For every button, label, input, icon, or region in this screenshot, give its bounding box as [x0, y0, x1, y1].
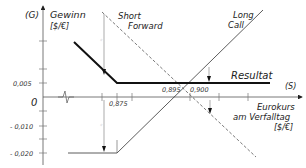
y-axis-symbol: (G) — [25, 10, 39, 20]
origin-label: 0 — [31, 97, 37, 108]
diagram-canvas: = = (G) Gewinn [$/€] Short Forward Long … — [0, 0, 306, 168]
axis-break-icon — [58, 91, 74, 103]
svg-text:=: = — [99, 37, 105, 42]
y-axis-unit: [$/€] — [50, 22, 69, 31]
arrow-head-icon — [208, 108, 212, 114]
arrow-head-icon — [207, 76, 211, 82]
y-axis-title: Gewinn — [50, 9, 86, 20]
x-axis-symbol: (S) — [285, 82, 296, 91]
x-axis-unit: [$/€] — [274, 123, 293, 132]
x-tick-label: 0,900 — [190, 86, 209, 94]
resultat-label: Resultat — [231, 70, 273, 81]
short-forward-line — [102, 12, 256, 157]
x-tick-label: 0,875 — [109, 100, 128, 108]
svg-text:=: = — [99, 122, 105, 127]
x-tick-label: 0,895 — [162, 86, 181, 94]
short-forward-label: Short — [118, 11, 141, 21]
long-call-label-2: Call — [228, 20, 245, 30]
long-call-line — [68, 10, 263, 153]
y-tick-label: 0,005 — [13, 80, 32, 88]
x-axis-title-2: am Verfalltag — [233, 112, 291, 122]
y-tick-label: - 0,020 — [10, 150, 33, 158]
payoff-diagram: = = (G) Gewinn [$/€] Short Forward Long … — [0, 0, 306, 168]
long-call-label: Long — [233, 10, 254, 20]
y-tick-label: - 0,010 — [10, 123, 33, 131]
short-forward-label-2: Forward — [128, 21, 163, 31]
arrow-head-icon — [102, 146, 106, 152]
x-axis-title-1: Eurokurs — [257, 102, 295, 112]
